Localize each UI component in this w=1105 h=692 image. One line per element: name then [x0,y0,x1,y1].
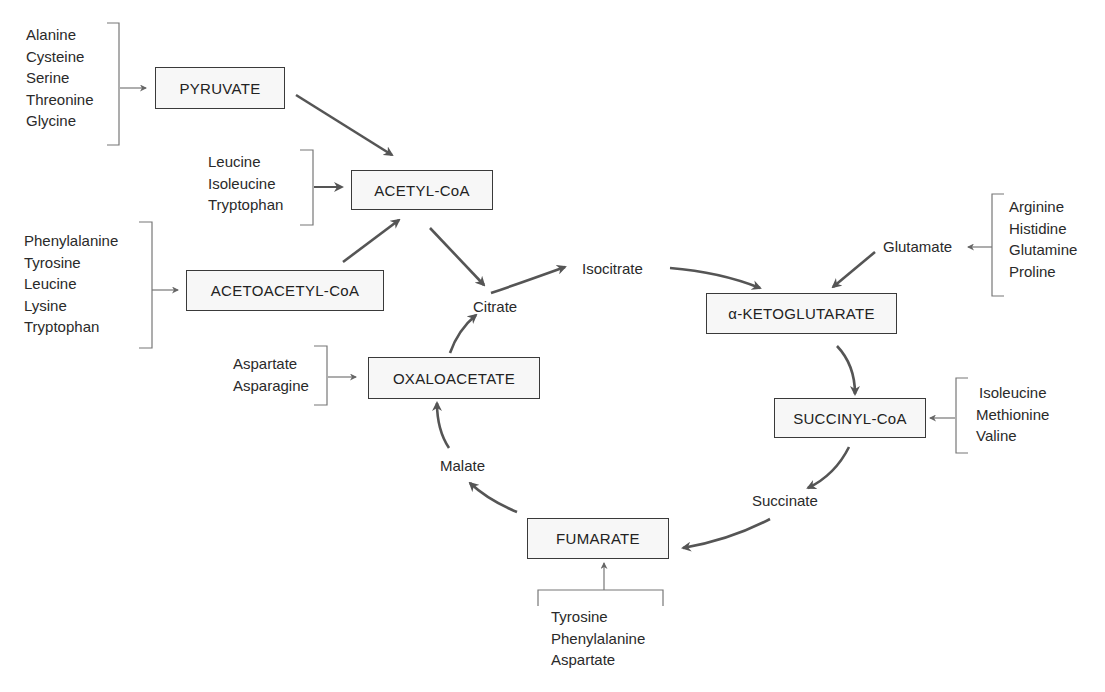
amino-acid: Valine [976,425,1049,447]
label-isocitrate: Isocitrate [582,258,643,280]
box-acetoacetyl-coa: ACETOACETYL-CoA [186,270,384,311]
amino-acid: Methionine [976,404,1049,426]
inputs-acetyl-coa: Leucine Isoleucine Tryptophan [208,151,283,216]
amino-acid: Histidine [1009,218,1077,240]
box-succinyl-coa: SUCCINYL-CoA [774,398,926,438]
amino-acid: Cysteine [26,46,94,68]
bracket-oxaloacetate [314,346,327,405]
amino-acid: Phenylalanine [551,628,645,650]
bracket-succinyl-coa [956,378,968,453]
amino-acid: Threonine [26,89,94,111]
amino-acid: Proline [1009,261,1077,283]
box-acetyl-coa: ACETYL-CoA [351,170,493,210]
amino-acid: Phenylalanine [24,230,118,252]
label-citrate: Citrate [473,296,517,318]
amino-acid: Asparagine [233,375,309,397]
amino-acid: Lysine [24,295,118,317]
amino-acid: Alanine [26,24,94,46]
inputs-pyruvate: Alanine Cysteine Serine Threonine Glycin… [26,24,94,132]
bracket-acetoacetyl-coa [139,222,152,348]
pathway-diagram: PYRUVATE ACETYL-CoA ACETOACETYL-CoA OXAL… [0,0,1105,692]
box-fumarate: FUMARATE [527,518,669,559]
amino-acid: Aspartate [551,649,645,671]
amino-acid: Tryptophan [24,316,118,338]
amino-acid: Serine [26,67,94,89]
inputs-oxaloacetate: Aspartate Asparagine [233,353,309,396]
bracket-acetyl-coa [300,150,313,225]
inputs-glutamate: Arginine Histidine Glutamine Proline [1009,196,1077,282]
bracket-pyruvate [107,23,119,145]
bracket-fumarate [538,590,663,606]
label-succinate: Succinate [752,490,818,512]
inputs-succinyl-coa: Isoleucine Methionine Valine [976,382,1049,447]
amino-acid: Glutamine [1009,239,1077,261]
amino-acid: Isoleucine [208,173,283,195]
amino-acid: Leucine [24,273,118,295]
inputs-fumarate: Tyrosine Phenylalanine Aspartate [551,606,645,671]
inputs-acetoacetyl-coa: Phenylalanine Tyrosine Leucine Lysine Tr… [24,230,118,338]
box-pyruvate: PYRUVATE [155,67,285,109]
amino-acid: Tyrosine [24,252,118,274]
label-malate: Malate [440,455,485,477]
amino-acid: Tryptophan [208,194,283,216]
bracket-glutamate [992,194,1004,296]
amino-acid: Glycine [26,110,94,132]
amino-acid: Isoleucine [976,382,1049,404]
amino-acid: Arginine [1009,196,1077,218]
amino-acid: Leucine [208,151,283,173]
label-glutamate: Glutamate [883,236,952,258]
amino-acid: Tyrosine [551,606,645,628]
box-oxaloacetate: OXALOACETATE [368,357,540,399]
amino-acid: Aspartate [233,353,309,375]
box-alpha-ketoglutarate: α-KETOGLUTARATE [706,293,897,334]
